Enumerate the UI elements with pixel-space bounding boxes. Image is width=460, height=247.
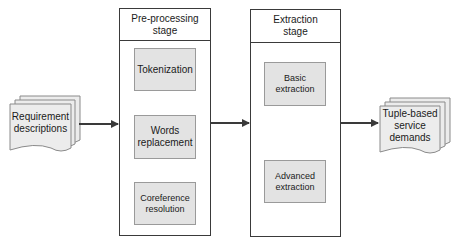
stage-extraction-title: Extraction stage — [251, 10, 340, 43]
step-basic-extraction: Basic extraction — [264, 62, 326, 106]
output-tuple-based-service-demands: Tuple-based service demands — [380, 106, 440, 146]
step-words-replacement: Words replacement — [134, 115, 196, 159]
step-advanced-extraction: Advanced extraction — [264, 160, 326, 203]
stage-preprocessing-title: Pre-processing stage — [120, 9, 210, 41]
input-requirement-descriptions: Requirement descriptions — [10, 106, 71, 140]
step-tokenization: Tokenization — [134, 48, 196, 91]
step-coreference-resolution: Coreference resolution — [134, 182, 196, 225]
